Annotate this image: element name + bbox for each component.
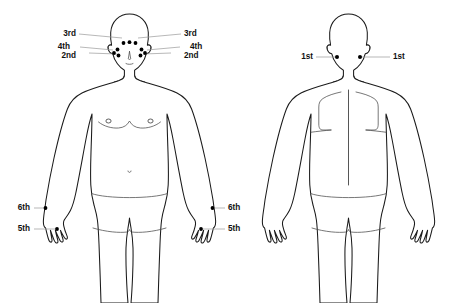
front-left-hand-labels: 6th5th	[18, 203, 30, 233]
site-label-back-left-1st: 1st	[301, 52, 313, 61]
site-dot-face-forehead-center	[128, 40, 132, 44]
front-body-outline	[43, 76, 215, 303]
site-dot-hand-right-wrist	[211, 206, 215, 210]
site-label-front-left-5th: 5th	[18, 224, 30, 233]
front-head-outline	[108, 14, 151, 84]
site-label-front-right-4th: 4th	[190, 42, 202, 51]
leader-front-right-4th	[147, 47, 180, 50]
site-dot-face-jaw-left	[112, 51, 116, 55]
body-injection-site-diagram: 3rd4th2nd 3rd4th2nd 6th5th 6th5th 1st 1s…	[0, 0, 460, 303]
front-right-hand-labels: 6th5th	[228, 203, 240, 233]
back-right-labels: 1st	[393, 52, 405, 61]
site-label-front-left-3rd: 3rd	[63, 29, 76, 38]
site-dot-face-cheek-right	[139, 54, 143, 58]
site-label-back-right-1st: 1st	[393, 52, 405, 61]
site-dot-face-cheek-left	[117, 54, 121, 58]
site-label-front-right-5th: 5th	[228, 224, 240, 233]
site-dot-face-temple-left	[116, 48, 120, 52]
site-dot-hand-left-wrist	[44, 206, 48, 210]
site-dot-nape-right	[358, 55, 362, 59]
site-dot-face-forehead-right	[134, 41, 138, 45]
site-dot-face-forehead-left	[122, 41, 126, 45]
site-label-front-left-6th: 6th	[18, 203, 30, 212]
front-left-labels: 3rd4th2nd	[58, 29, 76, 60]
site-label-front-right-3rd: 3rd	[184, 29, 197, 38]
diagram-canvas: 3rd4th2nd 3rd4th2nd 6th5th 6th5th 1st 1s…	[0, 0, 460, 303]
front-right-labels: 3rd4th2nd	[184, 29, 202, 60]
site-label-front-left-4th: 4th	[58, 42, 70, 51]
site-dot-nape-left	[335, 55, 339, 59]
site-label-front-left-2nd: 2nd	[61, 51, 76, 60]
back-left-labels: 1st	[301, 52, 313, 61]
site-label-front-right-6th: 6th	[228, 203, 240, 212]
site-dot-hand-right-web	[199, 227, 203, 231]
site-dot-hand-left-web	[55, 227, 59, 231]
site-dot-face-jaw-right	[143, 51, 147, 55]
back-head-outline	[327, 14, 370, 84]
site-dot-face-temple-right	[140, 48, 144, 52]
site-label-front-right-2nd: 2nd	[184, 51, 199, 60]
back-view-figure	[262, 14, 434, 303]
